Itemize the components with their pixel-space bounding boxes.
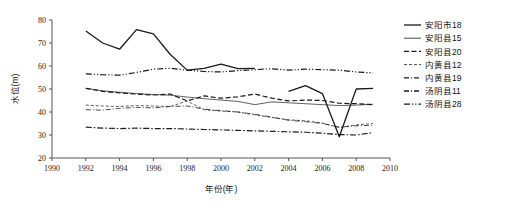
y-tick-label: 30 <box>38 131 46 140</box>
legend-label: 安阳市18 <box>425 20 462 30</box>
y-tick-label: 80 <box>38 16 46 25</box>
y-axis-title: 水位(m) <box>10 73 20 104</box>
legend-label: 安阳县20 <box>425 47 462 57</box>
x-tick-label: 1998 <box>179 164 195 173</box>
series-line <box>86 88 373 104</box>
x-tick-label: 2006 <box>314 164 330 173</box>
series-line <box>86 127 373 135</box>
series-line <box>86 68 373 75</box>
x-tick-label: 2000 <box>213 164 229 173</box>
series-line <box>86 106 373 127</box>
y-tick-label: 70 <box>38 39 46 48</box>
x-tick-label: 1990 <box>44 164 60 173</box>
legend-label: 安阳县15 <box>425 33 462 43</box>
chart-figure: 20304050607080 1990199219941996199820002… <box>0 0 510 205</box>
y-tick-label: 60 <box>38 62 46 71</box>
y-tick-label: 40 <box>38 108 46 117</box>
x-tick-label: 2002 <box>247 164 263 173</box>
legend-label: 汤阴县28 <box>425 99 462 109</box>
x-tick-label: 1992 <box>78 164 94 173</box>
series-line <box>289 86 374 137</box>
series-lines <box>86 30 373 137</box>
x-axis-title: 年份(年) <box>205 184 238 194</box>
x-tick-label: 2008 <box>348 164 364 173</box>
y-tick-label: 50 <box>38 85 46 94</box>
legend-label: 内黄县19 <box>425 73 462 83</box>
x-tick-label: 2010 <box>382 164 398 173</box>
x-tick-label: 1996 <box>145 164 161 173</box>
x-axis-ticks: 1990199219941996199820002002200420062008… <box>44 158 398 173</box>
y-axis-ticks: 20304050607080 <box>38 16 52 163</box>
legend-label: 内黄县12 <box>425 60 462 70</box>
legend-label: 汤阴县11 <box>425 86 461 96</box>
chart-legend: 安阳市18安阳县15安阳县20内黄县12内黄县19汤阴县11汤阴县28 <box>404 20 462 109</box>
x-tick-label: 1994 <box>112 164 128 173</box>
y-tick-label: 20 <box>38 154 46 163</box>
series-line <box>86 30 255 70</box>
line-chart: 20304050607080 1990199219941996199820002… <box>0 0 510 205</box>
x-tick-label: 2004 <box>281 164 297 173</box>
